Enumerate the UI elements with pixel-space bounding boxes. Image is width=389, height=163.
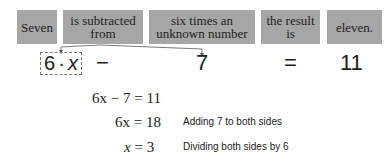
eleven-number: 11	[340, 50, 363, 76]
arrow-to-6x-icon	[61, 45, 100, 52]
coef: 6	[44, 52, 55, 75]
seven-number: 7	[196, 50, 208, 76]
equation-left: 6x	[115, 114, 130, 130]
equation-right: 3	[147, 139, 155, 155]
reorder-arrows	[0, 0, 389, 163]
equation-step-1: 6x − 7 = 11	[92, 90, 161, 106]
dot: ·	[58, 52, 65, 75]
equals-sign: =	[284, 50, 297, 76]
step-2-note: Adding 7 to both sides	[183, 116, 282, 128]
equation-right: 11	[146, 90, 160, 106]
arrow-to-7-icon	[100, 45, 202, 55]
equation-left: x	[124, 139, 131, 155]
term-6x-box: 6 · x	[40, 52, 82, 75]
equation-left: 6x − 7	[92, 90, 130, 106]
equation-step-2: 6x = 18	[115, 114, 161, 130]
equation-step-3: x = 3	[124, 139, 154, 155]
minus-sign: −	[96, 50, 109, 76]
step-3-note: Dividing both sides by 6	[183, 141, 289, 153]
variable: x	[68, 52, 78, 75]
equation-right: 18	[146, 114, 161, 130]
